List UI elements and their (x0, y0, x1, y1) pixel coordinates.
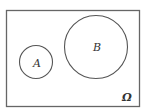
set-a-label: A (32, 57, 41, 70)
venn-diagram: A B Ω (0, 0, 147, 109)
universe-label: Ω (121, 91, 132, 104)
set-b-label: B (92, 41, 101, 54)
